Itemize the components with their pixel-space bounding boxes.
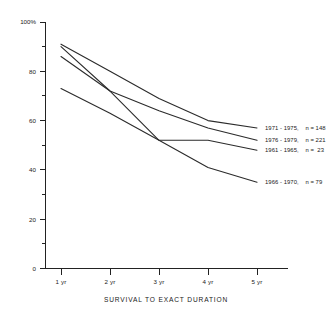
y-axis-tick-labels: 020406080100% (20, 18, 36, 271)
x-axis-ticks (61, 269, 257, 276)
x-axis-tick-labels: 1 yr2 yr3 yr4 yr5 yr (55, 278, 262, 285)
y-tick-label: 60 (29, 117, 36, 124)
chart-plot-area: 020406080100% 1 yr2 yr3 yr4 yr5 yr 1971 … (0, 0, 336, 315)
series-labels-group: 1971 - 1975, n = 1481976 - 1979, n = 221… (265, 125, 326, 185)
x-tick-label: 4 yr (202, 278, 213, 285)
y-tick-label: 40 (29, 166, 36, 173)
series-lines-group (61, 44, 257, 182)
y-tick-label: 0 (33, 265, 37, 272)
x-tick-label: 1 yr (55, 278, 66, 285)
y-tick-label: 20 (29, 216, 36, 223)
x-tick-label: 3 yr (153, 278, 164, 285)
series-label: 1961 - 1965, n = 23 (265, 147, 325, 153)
x-tick-label: 5 yr (251, 278, 262, 285)
series-label: 1966 - 1970, n = 79 (265, 179, 322, 185)
survival-line-chart: 020406080100% 1 yr2 yr3 yr4 yr5 yr 1971 … (0, 0, 336, 315)
series-label: 1971 - 1975, n = 148 (265, 125, 326, 131)
y-axis-ticks (40, 22, 46, 269)
x-tick-label: 2 yr (104, 278, 115, 285)
y-tick-label: 100% (20, 18, 36, 25)
series-label: 1976 - 1979, n = 221 (265, 137, 326, 143)
series-line (61, 89, 257, 183)
y-tick-label: 80 (29, 68, 36, 75)
series-line (61, 44, 257, 128)
x-axis-title: SURVIVAL TO EXACT DURATION (104, 296, 228, 303)
